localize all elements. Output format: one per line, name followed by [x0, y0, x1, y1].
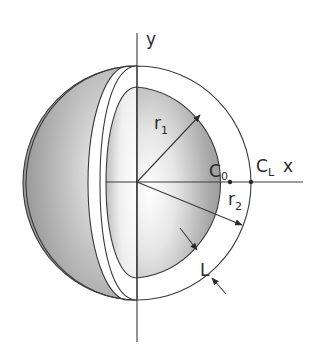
- r2-label-base: r: [228, 189, 235, 209]
- x-axis-label: x: [283, 156, 293, 176]
- thickness-label: L: [200, 260, 210, 280]
- r1-label-base: r: [154, 113, 161, 133]
- inner-boundary-point: [228, 180, 232, 184]
- spherical-shell-diagram: y x r1 r2 C0 CL L: [0, 0, 326, 361]
- outer-boundary-point: [249, 180, 253, 184]
- c0-label-base: C: [209, 161, 221, 181]
- r1-label-sub: 1: [161, 124, 168, 137]
- thickness-arrow-outer: [212, 278, 226, 294]
- c0-label-sub: 0: [221, 170, 228, 183]
- y-axis-label: y: [146, 29, 156, 49]
- r2-label-sub: 2: [235, 200, 242, 213]
- cl-label-base: C: [256, 156, 268, 176]
- cl-label-sub: L: [268, 166, 275, 179]
- cl-label: CL: [256, 156, 275, 179]
